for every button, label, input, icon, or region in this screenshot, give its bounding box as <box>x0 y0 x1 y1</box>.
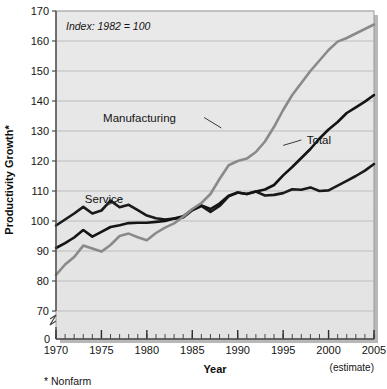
y-tick-label: 110 <box>31 185 49 197</box>
estimate-note: (estimate) <box>330 362 374 373</box>
index-annotation: Index: 1982 = 100 <box>66 20 151 32</box>
y-axis-title: Productivity Growth* <box>3 125 15 235</box>
y-tick-label: 170 <box>31 5 49 17</box>
series-label-total: Total <box>307 134 331 146</box>
x-tick-label: 1980 <box>135 344 159 356</box>
y-tick-label: 70 <box>37 305 49 317</box>
series-label-manufacturing: Manufacturing <box>103 112 176 124</box>
plot-area <box>56 11 374 339</box>
x-tick-label: 1985 <box>180 344 204 356</box>
y-tick-label: 160 <box>31 35 49 47</box>
x-tick-label: 1990 <box>225 344 249 356</box>
y-tick-label: 120 <box>31 155 49 167</box>
y-tick-label: 100 <box>31 215 49 227</box>
productivity-growth-line-chart: 708090100110120130140150160170 197019751… <box>0 0 387 389</box>
y-tick-label: 150 <box>31 65 49 77</box>
y-tick-label: 130 <box>31 125 49 137</box>
footnote-nonfarm: * Nonfarm <box>44 375 92 387</box>
x-tick-label: 2005 <box>362 344 386 356</box>
chart-figure: 708090100110120130140150160170 197019751… <box>0 0 387 389</box>
x-tick-label: 1975 <box>89 344 113 356</box>
x-tick-label: 1970 <box>44 344 68 356</box>
y-axis-zero-label: 0 <box>44 333 50 345</box>
y-tick-label: 80 <box>37 275 49 287</box>
x-tick-label: 2000 <box>316 344 340 356</box>
y-tick-label: 90 <box>37 245 49 257</box>
x-axis-title: Year <box>203 363 227 375</box>
y-tick-label: 140 <box>31 95 49 107</box>
series-label-service: Service <box>85 193 123 205</box>
x-tick-label: 1995 <box>271 344 295 356</box>
